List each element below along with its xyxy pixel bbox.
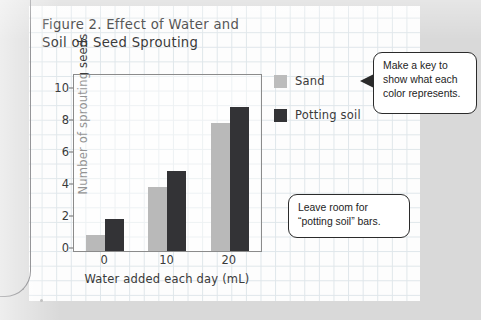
bar-groups (74, 75, 261, 251)
x-axis-ticks: 01020 (73, 253, 260, 267)
paper-speck (40, 299, 43, 302)
bar-potting-soil-0 (105, 219, 124, 251)
y-tick-label-2: 2 (47, 209, 69, 223)
legend-item-sand: Sand (274, 74, 361, 88)
bar-group-20 (199, 75, 261, 251)
bar-potting-soil-10 (167, 171, 186, 251)
chart-legend: Sand Potting soil (274, 74, 361, 142)
y-tick-label-10: 10 (47, 81, 69, 95)
x-tick-label-10: 10 (135, 253, 197, 267)
y-tick-label-6: 6 (47, 145, 69, 159)
x-tick-label-20: 20 (198, 253, 260, 267)
legend-item-potting-soil: Potting soil (274, 108, 361, 122)
callout-key-line-3: color represents. (383, 87, 468, 101)
y-axis-ticks: 0246810 (47, 72, 69, 248)
bar-potting-soil-20 (230, 107, 249, 251)
callout-room-line-1: Leave room for (298, 201, 401, 215)
y-tick-label-4: 4 (47, 177, 69, 191)
x-axis-label: Water added each day (mL) (61, 272, 273, 286)
worksheet-canvas: Figure 2. Effect of Water and Soil on Se… (0, 0, 481, 320)
callout-room-line-2: “potting soil” bars. (298, 215, 401, 229)
legend-label-potting-soil: Potting soil (295, 108, 361, 122)
y-tick-label-0: 0 (47, 241, 69, 255)
y-tick-label-8: 8 (47, 113, 69, 127)
x-tick-label-0: 0 (73, 253, 135, 267)
callout-pointer-triangle-icon (360, 74, 374, 88)
bar-group-0 (74, 75, 136, 251)
callout-make-a-key: Make a key to show what each color repre… (373, 52, 477, 114)
callout-key-line-2: show what each (383, 73, 468, 87)
bar-sand-10 (148, 187, 167, 251)
legend-swatch-potting-soil-icon (274, 109, 287, 122)
bar-sand-20 (211, 123, 230, 251)
bar-chart: Number of sprouting seeds 0246810 01020 … (41, 72, 291, 277)
bar-group-10 (136, 75, 198, 251)
binder-page-edge (0, 0, 31, 297)
plot-frame (73, 74, 262, 252)
callout-leave-room: Leave room for “potting soil” bars. (288, 194, 410, 238)
bar-sand-0 (86, 235, 105, 251)
callout-key-line-1: Make a key to (383, 59, 468, 73)
legend-label-sand: Sand (295, 74, 325, 88)
legend-swatch-sand-icon (274, 75, 287, 88)
